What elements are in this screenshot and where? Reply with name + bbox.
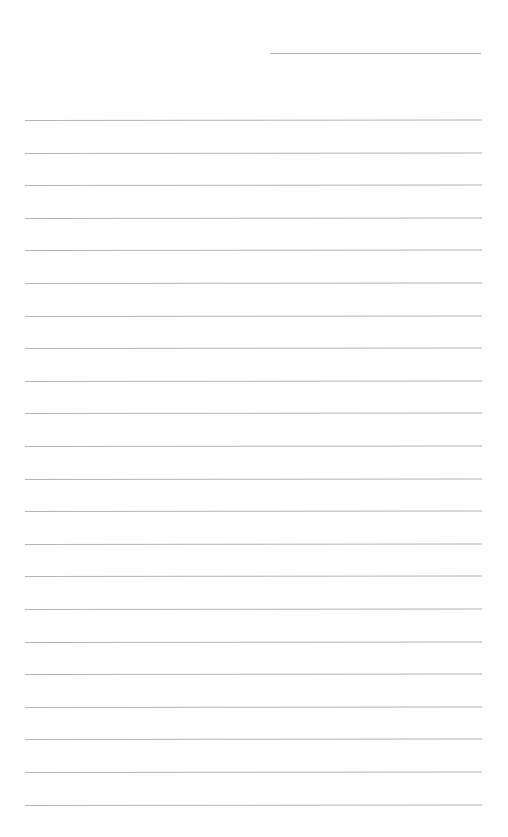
- ruled-line: [25, 772, 482, 773]
- ruled-line: [25, 609, 482, 610]
- ruled-line: [25, 283, 482, 284]
- ruled-line: [25, 413, 482, 414]
- ruled-line: [25, 348, 482, 349]
- ruled-line: [25, 674, 482, 675]
- ruled-line: [25, 185, 482, 186]
- ruled-line: [25, 250, 482, 251]
- ruled-line: [25, 511, 482, 512]
- ruled-line: [25, 642, 482, 643]
- ruled-line: [25, 576, 482, 577]
- ruled-line: [25, 446, 482, 447]
- ruled-line: [25, 805, 482, 806]
- header-line: [270, 53, 481, 54]
- ruled-line: [25, 739, 482, 740]
- ruled-line: [25, 218, 482, 219]
- ruled-line: [25, 381, 482, 382]
- ruled-line: [25, 544, 482, 545]
- ruled-line: [25, 316, 482, 317]
- ruled-line: [25, 120, 482, 121]
- ruled-line: [25, 479, 482, 480]
- ruled-line: [25, 707, 482, 708]
- lined-paper-page: [0, 0, 508, 837]
- ruled-line: [25, 153, 482, 154]
